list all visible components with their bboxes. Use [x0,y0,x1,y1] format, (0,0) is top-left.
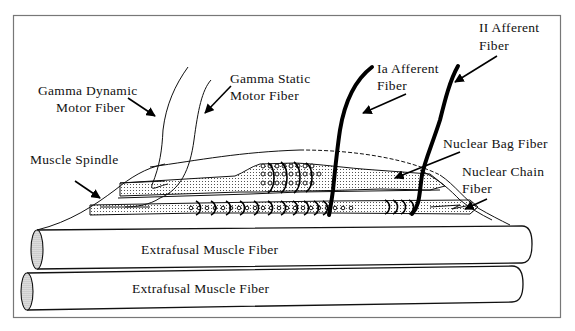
label-extrafusal-fiber-upper: Extrafusal Muscle Fiber [141,242,279,257]
label-gamma-static-line2: Motor Fiber [230,88,299,103]
extrafusal-fiber-upper [31,226,532,269]
label-ia-afferent-line1: Ia Afferent [377,61,439,76]
gamma-dynamic-motor-fiber [152,67,188,188]
label-extrafusal-fiber-lower: Extrafusal Muscle Fiber [132,281,270,296]
label-ii-afferent-line1: II Afferent [479,20,539,35]
label-nuclear-bag-fiber: Nuclear Bag Fiber [443,136,548,151]
label-nuclear-chain-line1: Nuclear Chain [462,164,544,179]
ia-afferent-fiber [329,67,372,215]
extrafusal-fiber-lower [21,266,523,310]
label-gamma-static-line1: Gamma Static [230,71,310,86]
label-gamma-dynamic-line2: Motor Fiber [56,100,125,115]
muscle-spindle-diagram: Gamma Dynamic Motor Fiber Gamma Static M… [0,0,575,331]
label-gamma-dynamic-line1: Gamma Dynamic [38,83,138,98]
label-ii-afferent-line2: Fiber [479,38,509,53]
label-nuclear-chain-line2: Fiber [462,181,492,196]
label-muscle-spindle: Muscle Spindle [30,152,119,167]
label-ia-afferent-line2: Fiber [377,78,407,93]
